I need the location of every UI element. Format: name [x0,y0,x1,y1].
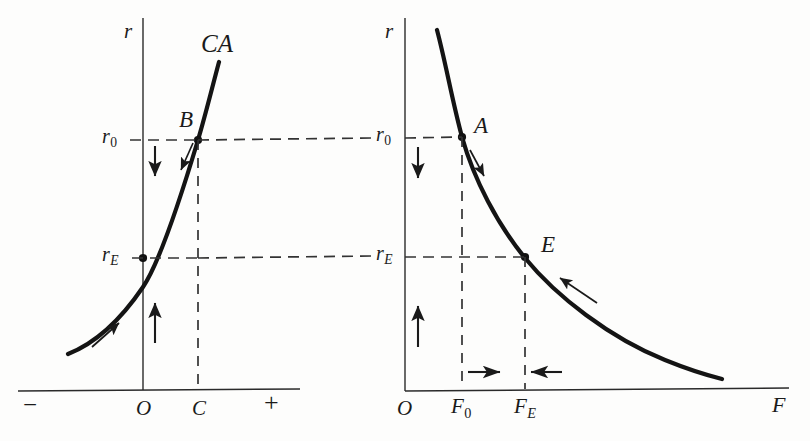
right-point-e-label: E [541,233,555,256]
left-y-tick-r0-sub: 0 [110,135,117,150]
r0-connector-dashed [198,138,373,140]
left-x-axis-origin-label: O [136,398,151,419]
right-y-tick-rE: rE [376,243,393,267]
right-x-axis-label-f: F [772,394,785,416]
left-y-tick-rE-base: r [102,243,110,265]
right-y-axis-label: r [385,21,393,42]
right-panel-group [405,18,789,391]
right-x-tick-fe: FE [514,396,536,420]
rE-connector-dashed [198,256,373,258]
left-curve-label-ca: CA [201,31,233,56]
right-y-tick-r0-base: r [376,123,384,145]
right-demand-curve [437,30,722,379]
right-x-tick-fe-sub: E [527,405,536,421]
left-x-axis-minus-label: − [23,392,37,417]
left-point-b-label: B [179,108,193,131]
right-x-axis [405,388,789,391]
left-y-tick-r0: r0 [102,126,117,150]
figure-canvas: r CA B r0 rE − O C + r r0 rE A E O F0 FE… [0,0,810,441]
left-y-tick-r0-base: r [102,125,110,147]
right-y-tick-r0-sub: 0 [384,133,391,148]
right-y-tick-r0: r0 [376,124,391,148]
left-curve-arrow-up [92,323,119,347]
right-x-axis-origin-label: O [397,398,412,419]
right-y-tick-rE-sub: E [384,252,393,267]
left-y-axis-label: r [124,21,132,42]
right-x-tick-f0-sub: 0 [464,405,472,421]
diagram-svg [0,0,810,441]
right-x-tick-f0-base: F [451,394,464,418]
left-x-axis [18,389,300,391]
right-point-a-label: A [474,114,488,137]
right-x-tick-fe-base: F [514,394,527,418]
r0-level-dashed-right [405,137,462,138]
left-x-axis-c-label: C [192,398,206,419]
left-panel-group [18,18,373,391]
left-x-axis-plus-label: + [264,390,279,416]
right-y-tick-rE-base: r [376,242,384,264]
left-y-tick-rE: rE [102,244,119,268]
left-y-tick-rE-sub: E [110,253,119,268]
right-x-tick-f0: F0 [451,396,471,420]
